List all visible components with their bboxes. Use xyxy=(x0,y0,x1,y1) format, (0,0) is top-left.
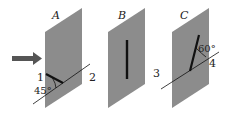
light-arrow-shaft xyxy=(12,56,34,61)
angle-label-c: 60° xyxy=(198,43,216,54)
line-label-1: 1 xyxy=(37,71,44,84)
polarizer-diagram: A 1 2 45° B C 60° 3 4 xyxy=(0,0,226,116)
panel-a-label: A xyxy=(51,9,60,22)
panel-a: A 1 2 45° xyxy=(12,8,96,108)
panel-b: B xyxy=(108,8,145,108)
light-arrow-icon xyxy=(33,52,42,65)
line-label-4: 4 xyxy=(209,57,216,70)
panel-c: C 60° 3 4 xyxy=(153,8,219,108)
line-label-3: 3 xyxy=(153,67,160,80)
line-label-2: 2 xyxy=(89,71,96,84)
panel-c-label: C xyxy=(180,9,189,22)
sheet-c xyxy=(172,8,209,108)
angle-label-a: 45° xyxy=(34,85,52,96)
panel-b-label: B xyxy=(117,9,126,22)
